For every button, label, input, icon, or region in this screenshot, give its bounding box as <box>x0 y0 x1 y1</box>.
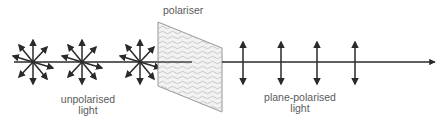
unpolarised-label-line2: light <box>58 105 118 116</box>
plane-polarised-light-label: plane-polarised light <box>262 92 338 114</box>
polariser-label: polariser <box>163 5 203 16</box>
plane-polarised-label-line2: light <box>262 103 338 114</box>
polariser-sheet <box>158 22 222 112</box>
unpolarised-light-label: unpolarised light <box>58 94 118 116</box>
plane-polarised-oscillations <box>243 42 355 84</box>
